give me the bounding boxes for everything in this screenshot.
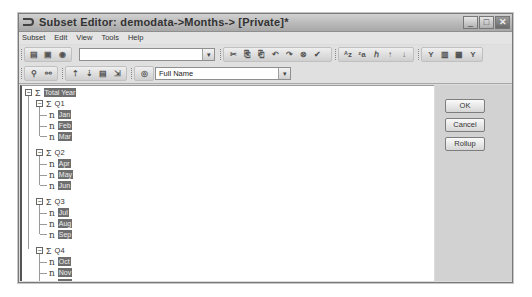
expand-toolbar-group: ⚲ ⚯ [24, 66, 58, 81]
tree-node-q4[interactable]: − Σ Q4 [36, 245, 65, 256]
node-label: Jun [58, 181, 71, 190]
filter-attribute-icon[interactable]: ▥ [439, 49, 451, 60]
tree-node-mar[interactable]: n Mar [49, 131, 72, 142]
node-label: Aug [58, 219, 72, 228]
collapse-icon[interactable]: − [36, 247, 43, 254]
close-button[interactable]: ✕ [495, 16, 510, 29]
settings-icon[interactable]: ◉ [56, 49, 68, 60]
toolbar-grip[interactable] [335, 49, 337, 60]
tree-node-sep[interactable]: n Sep [49, 229, 72, 240]
tree-connector [40, 164, 47, 165]
tree-connector [40, 185, 47, 186]
tree-node-dec[interactable]: n Dec [49, 278, 72, 281]
menu-subset[interactable]: Subset [22, 32, 45, 44]
tree-node-q1[interactable]: − Σ Q1 [36, 98, 65, 109]
tree-node-nov[interactable]: n Nov [49, 267, 72, 278]
collapse-all-icon[interactable]: ⚯ [42, 68, 54, 79]
drill-down-icon[interactable]: ⇣ [83, 68, 95, 79]
toolbar-grip[interactable] [131, 68, 133, 79]
tree-connector [28, 95, 29, 249]
leaf-icon: n [49, 181, 55, 191]
tree-connector [40, 262, 47, 263]
node-label: Feb [58, 121, 72, 130]
tree-node-apr[interactable]: n Apr [49, 158, 71, 169]
copy-icon[interactable]: ⎘ [241, 49, 253, 60]
leaf-icon: n [49, 219, 55, 229]
paste-icon[interactable]: ⎗ [255, 49, 267, 60]
sort-toolbar-group: ᴬz ᶻa ℎ ↑ ↓ [338, 47, 414, 62]
consolidated-icon: Σ [46, 148, 52, 158]
maximize-button[interactable]: □ [479, 16, 494, 29]
tree-node-may[interactable]: n May [49, 169, 73, 180]
redo-icon[interactable]: ↷ [283, 49, 295, 60]
alias-toolbar-group: ◎ [134, 66, 154, 81]
tree-node-jul[interactable]: n Jul [49, 207, 69, 218]
menu-edit[interactable]: Edit [54, 32, 67, 44]
tree-node-jun[interactable]: n Jun [49, 180, 71, 191]
node-label: Q1 [55, 99, 65, 108]
filter-icon[interactable]: Y [467, 49, 479, 60]
tree-node-q2[interactable]: − Σ Q2 [36, 147, 65, 158]
collapse-icon[interactable]: − [36, 149, 43, 156]
collapse-icon[interactable]: − [25, 89, 32, 96]
tree-node-jan[interactable]: n Jan [49, 109, 71, 120]
delete-icon[interactable]: ⊗ [297, 49, 309, 60]
collapse-icon[interactable]: − [36, 100, 43, 107]
toolbar-grip[interactable] [21, 68, 23, 79]
chevron-down-icon[interactable]: ▾ [202, 49, 214, 60]
node-label: Mar [58, 132, 72, 141]
alias-icon[interactable]: ◎ [138, 68, 150, 79]
toolbar-grip[interactable] [220, 49, 222, 60]
toolbar-grip[interactable] [62, 68, 64, 79]
tree-connector [39, 253, 40, 281]
save-icon[interactable]: ▣ [42, 49, 54, 60]
menu-help[interactable]: Help [128, 32, 143, 44]
filter-expression-icon[interactable]: ▦ [453, 49, 465, 60]
sort-hierarchy-icon[interactable]: ℎ [370, 49, 382, 60]
edit-toolbar-group: ✂ ⎘ ⎗ ↶ ↷ ⊗ ✔ [223, 47, 332, 62]
ok-button[interactable]: OK [445, 99, 485, 113]
consolidated-icon: Σ [46, 246, 52, 256]
rollup-button[interactable]: Rollup [445, 137, 485, 151]
chevron-down-icon[interactable]: ▾ [278, 68, 290, 79]
subset-tree[interactable]: − Σ Total Year − Σ Q1 n Jan n Feb n Mar … [20, 85, 434, 281]
tree-connector [39, 204, 40, 234]
keep-icon[interactable]: ✔ [311, 49, 323, 60]
expand-icon[interactable]: ⇲ [111, 68, 123, 79]
drill-up-icon[interactable]: ⇡ [69, 68, 81, 79]
collapse-icon[interactable]: − [36, 198, 43, 205]
sort-asc-icon[interactable]: ᴬz [342, 49, 354, 60]
tree-connector [40, 136, 47, 137]
node-label: Q4 [55, 246, 65, 255]
tree-node-q3[interactable]: − Σ Q3 [36, 196, 65, 207]
menu-view[interactable]: View [76, 32, 92, 44]
cancel-button[interactable]: Cancel [445, 118, 485, 132]
open-subset-icon[interactable]: ▤ [28, 49, 40, 60]
sort-index-asc-icon[interactable]: ↑ [384, 49, 396, 60]
tree-node-total-year[interactable]: − Σ Total Year [25, 87, 76, 98]
toolbar-grip[interactable] [21, 49, 23, 60]
tree-node-feb[interactable]: n Feb [49, 120, 72, 131]
sort-desc-icon[interactable]: ᶻa [356, 49, 368, 60]
toolbar-secondary: ⚲ ⚯ ⇡ ⇣ ▤ ⇲ ◎ Full Name ▾ [19, 64, 512, 84]
minimize-button[interactable]: _ [463, 16, 478, 29]
subset-name-combo[interactable]: ▾ [79, 48, 215, 61]
node-label: Total Year [44, 88, 77, 97]
node-label: Jul [58, 208, 69, 217]
filter-level-icon[interactable]: Y [425, 49, 437, 60]
action-button-panel: OK Cancel Rollup [435, 85, 512, 281]
cut-icon[interactable]: ✂ [227, 49, 239, 60]
leaf-icon: n [49, 257, 55, 267]
consolidated-icon: Σ [35, 88, 41, 98]
leaf-icon: n [49, 279, 55, 282]
undo-icon[interactable]: ↶ [269, 49, 281, 60]
sort-index-desc-icon[interactable]: ↓ [398, 49, 410, 60]
node-label: Apr [58, 159, 71, 168]
menu-tools[interactable]: Tools [101, 32, 119, 44]
expand-all-icon[interactable]: ⚲ [28, 68, 40, 79]
tree-node-oct[interactable]: n Oct [49, 256, 71, 267]
toolbar-grip[interactable] [418, 49, 420, 60]
hierarchy-icon[interactable]: ▤ [97, 68, 109, 79]
tree-node-aug[interactable]: n Aug [49, 218, 72, 229]
alias-combo[interactable]: Full Name ▾ [155, 67, 291, 80]
